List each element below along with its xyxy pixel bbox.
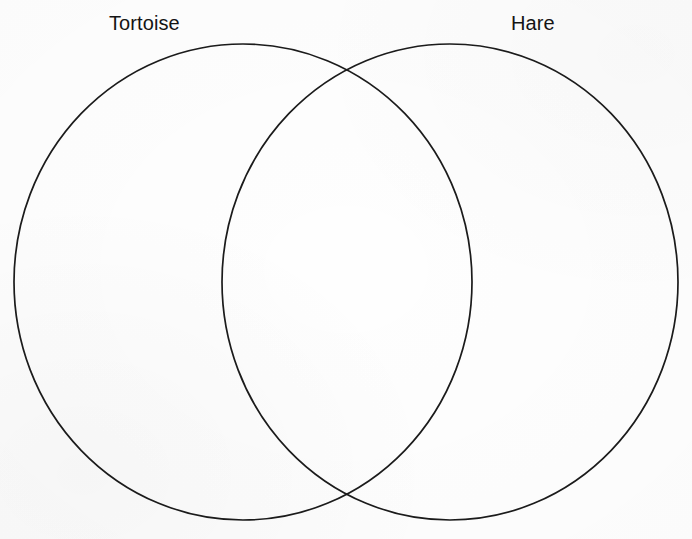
set-label-tortoise: Tortoise: [109, 13, 180, 33]
venn-circle-hare[interactable]: [222, 44, 678, 520]
set-label-hare: Hare: [511, 13, 555, 33]
venn-circle-tortoise[interactable]: [14, 44, 472, 520]
venn-diagram-page: Tortoise Hare: [0, 0, 692, 539]
venn-diagram-canvas: [0, 0, 692, 539]
